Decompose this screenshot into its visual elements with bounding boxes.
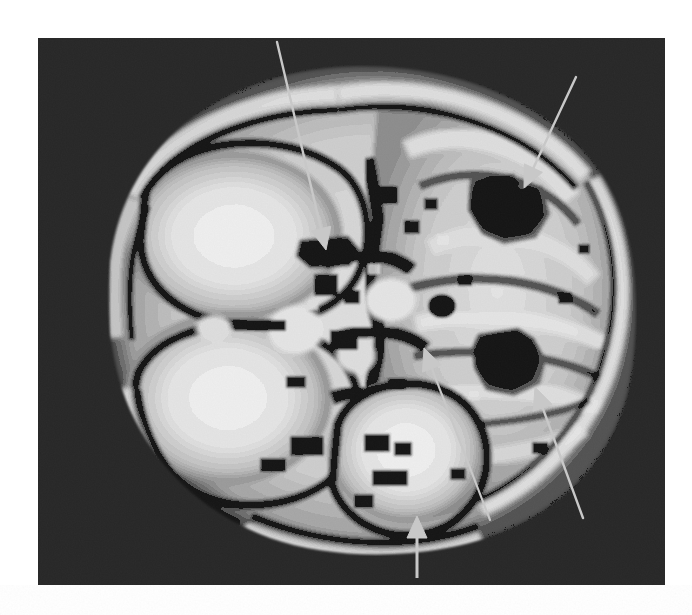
brain-scan-panel (38, 38, 665, 585)
brain-scan-image (38, 38, 665, 585)
figure-root (0, 0, 692, 615)
page-speckle (0, 585, 692, 615)
